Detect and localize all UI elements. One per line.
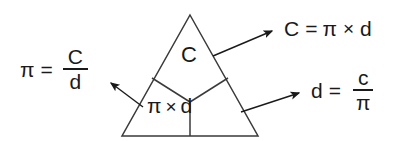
formula-pi-denominator: d: [65, 70, 87, 92]
formula-circumference-lhs: C: [284, 18, 299, 39]
triangle-top-cell-label: C: [181, 44, 197, 66]
formula-diameter-equals: =: [329, 80, 341, 101]
formula-circumference: C = π × d: [284, 18, 374, 39]
formula-pi-fraction: C d: [63, 46, 88, 93]
diagram-canvas: C π×d π = C d C = π × d d = c π: [0, 0, 405, 141]
formula-pi-equals: =: [41, 59, 53, 80]
formula-circumference-equals: =: [305, 18, 317, 39]
triangle-bottom-right-label: d: [181, 94, 193, 117]
formula-circumference-factor-one: π: [322, 18, 337, 39]
formula-diameter-lhs: d: [311, 80, 323, 101]
formula-diameter-denominator: π: [351, 91, 376, 113]
arrow-to-circumference-formula-shaft: [213, 31, 272, 56]
formula-pi-numerator: C: [63, 46, 88, 70]
triangle-bottom-left-label: π: [147, 94, 162, 117]
formula-diameter-fraction: c π: [351, 67, 376, 114]
arrow-to-pi-formula-shaft: [111, 83, 143, 107]
multiplication-icon: ×: [166, 96, 177, 117]
arrow-to-diameter-formula-shaft: [241, 93, 299, 112]
formula-diameter-numerator: c: [353, 67, 374, 91]
divider-right-branch: [190, 78, 228, 102]
formula-diameter: d = c π: [311, 67, 375, 114]
multiplication-icon: ×: [343, 19, 354, 38]
triangle-bottom-cells-label: π×d: [147, 95, 192, 116]
formula-pi: π = C d: [20, 46, 88, 93]
formula-pi-lhs: π: [20, 59, 35, 80]
formula-circumference-factor-two: d: [360, 18, 372, 39]
